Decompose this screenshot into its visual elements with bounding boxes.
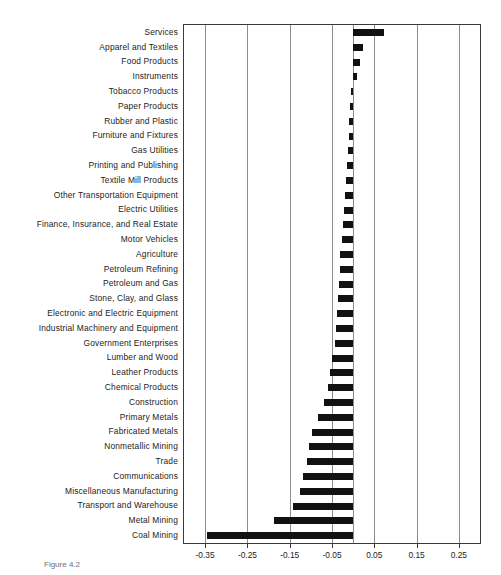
bar xyxy=(340,251,353,258)
figure-container: ServicesApparel and TextilesFood Product… xyxy=(0,0,501,575)
category-label: Agriculture xyxy=(0,250,178,258)
figure-caption: Figure 4.2 xyxy=(44,560,80,570)
plot-area xyxy=(183,24,481,544)
bar xyxy=(350,103,353,110)
category-label: Motor Vehicles xyxy=(0,235,178,243)
bar xyxy=(307,458,354,465)
category-label: Fabricated Metals xyxy=(0,427,178,435)
bar xyxy=(349,133,353,140)
tick-mark xyxy=(332,544,333,548)
category-label: Primary Metals xyxy=(0,413,178,421)
category-label: Nonmetallic Mining xyxy=(0,442,178,450)
bar xyxy=(349,118,353,125)
category-axis-labels: ServicesApparel and TextilesFood Product… xyxy=(0,24,178,544)
bar-series xyxy=(184,25,480,543)
category-label: Lumber and Wood xyxy=(0,353,178,361)
category-label: Chemical Products xyxy=(0,383,178,391)
bar xyxy=(353,29,384,36)
bar xyxy=(336,325,353,332)
category-label: Communications xyxy=(0,472,178,480)
bar xyxy=(335,340,354,347)
bar xyxy=(300,488,353,495)
category-label: Leather Products xyxy=(0,368,178,376)
tick-mark xyxy=(247,544,248,548)
category-label: Government Enterprises xyxy=(0,339,178,347)
category-label: Electronic and Electric Equipment xyxy=(0,309,178,317)
tick-label: -0.05 xyxy=(312,550,352,560)
bar xyxy=(328,384,353,391)
category-label: Transport and Warehouse xyxy=(0,501,178,509)
bar xyxy=(343,221,354,228)
tick-mark xyxy=(374,544,375,548)
tick-mark xyxy=(290,544,291,548)
bar xyxy=(293,503,353,510)
tick-mark xyxy=(205,544,206,548)
category-label: Stone, Clay, and Glass xyxy=(0,294,178,302)
bar xyxy=(342,236,353,243)
x-axis-ticks: -0.35-0.25-0.15-0.050.050.150.25 xyxy=(183,544,481,566)
bar xyxy=(351,88,353,95)
bar xyxy=(274,517,354,524)
bar xyxy=(318,414,353,421)
category-label: Gas Utilities xyxy=(0,146,178,154)
category-label: Trade xyxy=(0,457,178,465)
category-label: Petroleum Refining xyxy=(0,265,178,273)
bar xyxy=(346,177,353,184)
category-label: Food Products xyxy=(0,57,178,65)
category-label: Finance, Insurance, and Real Estate xyxy=(0,220,178,228)
bar xyxy=(330,369,353,376)
category-label: Rubber and Plastic xyxy=(0,117,178,125)
bar xyxy=(344,207,353,214)
category-label: Apparel and Textiles xyxy=(0,43,178,51)
category-label: Services xyxy=(0,28,178,36)
category-label: Paper Products xyxy=(0,102,178,110)
category-label: Petroleum and Gas xyxy=(0,279,178,287)
tick-label: 0.25 xyxy=(439,550,479,560)
category-label: Coal Mining xyxy=(0,531,178,539)
bar xyxy=(353,44,363,51)
category-label: Furniture and Fixtures xyxy=(0,131,178,139)
bar xyxy=(353,59,360,66)
tick-label: -0.25 xyxy=(227,550,267,560)
category-label: Textile Mill Products xyxy=(0,176,178,184)
bar xyxy=(347,162,353,169)
category-label: Tobacco Products xyxy=(0,87,178,95)
bar xyxy=(338,295,353,302)
tick-label: -0.15 xyxy=(270,550,310,560)
bar xyxy=(312,429,353,436)
bar xyxy=(303,473,353,480)
bar xyxy=(348,147,353,154)
bar xyxy=(345,192,353,199)
category-label: Industrial Machinery and Equipment xyxy=(0,324,178,332)
tick-label: 0.05 xyxy=(354,550,394,560)
tick-label: -0.35 xyxy=(185,550,225,560)
category-label: Miscellaneous Manufacturing xyxy=(0,487,178,495)
category-label: Instruments xyxy=(0,72,178,80)
category-label: Printing and Publishing xyxy=(0,161,178,169)
bar xyxy=(339,281,353,288)
category-label: Electric Utilities xyxy=(0,205,178,213)
category-label: Construction xyxy=(0,398,178,406)
bar xyxy=(309,443,353,450)
bar xyxy=(207,532,353,539)
category-label: Metal Mining xyxy=(0,516,178,524)
bar xyxy=(324,399,354,406)
bar xyxy=(340,266,354,273)
tick-mark xyxy=(417,544,418,548)
tick-mark xyxy=(459,544,460,548)
bar xyxy=(353,73,356,80)
bar xyxy=(332,355,353,362)
category-label: Other Transportation Equipment xyxy=(0,191,178,199)
bar xyxy=(337,310,353,317)
tick-label: 0.15 xyxy=(397,550,437,560)
